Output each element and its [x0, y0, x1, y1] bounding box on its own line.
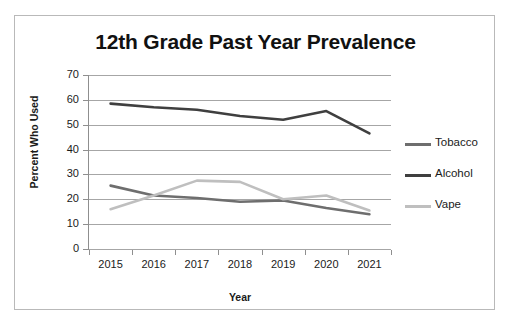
- y-axis-tick-label: 20: [39, 193, 79, 204]
- x-axis-tick-label: 2019: [261, 259, 305, 270]
- y-axis-tick-mark: [83, 224, 88, 225]
- y-axis-tick-label: 10: [39, 218, 79, 229]
- chart-title: 12th Grade Past Year Prevalence: [15, 30, 496, 54]
- y-axis-tick-label: 0: [39, 243, 79, 254]
- plot-area: [89, 75, 391, 249]
- x-axis-tick-label: 2020: [304, 259, 348, 270]
- legend-item-alcohol[interactable]: Alcohol: [405, 167, 495, 198]
- y-axis-tick-mark: [83, 75, 88, 76]
- y-axis-tick-mark: [83, 125, 88, 126]
- x-axis-tick-label: 2015: [89, 259, 133, 270]
- x-axis-tick-label: 2021: [347, 259, 391, 270]
- legend-label: Vape: [435, 198, 461, 210]
- series-line-tobacco: [111, 186, 370, 215]
- series-line-alcohol: [111, 104, 370, 134]
- y-axis-tick-mark: [83, 199, 88, 200]
- legend-swatch-alcohol: [405, 174, 431, 177]
- x-axis-tick-label: 2018: [218, 259, 262, 270]
- x-axis-tick-mark: [132, 250, 133, 255]
- y-axis-tick-label: 60: [39, 94, 79, 105]
- y-axis-tick-mark: [83, 150, 88, 151]
- chart-container: 12th Grade Past Year Prevalence Percent …: [14, 15, 495, 310]
- legend-swatch-vape: [405, 205, 431, 208]
- legend-label: Alcohol: [435, 167, 473, 179]
- legend-item-tobacco[interactable]: Tobacco: [405, 136, 495, 167]
- y-axis-tick-mark: [83, 174, 88, 175]
- chart-legend: TobaccoAlcoholVape: [405, 136, 495, 229]
- x-axis-tick-mark: [218, 250, 219, 255]
- x-axis-tick-mark: [89, 250, 90, 255]
- x-axis-tick-mark: [262, 250, 263, 255]
- y-axis-tick-label: 70: [39, 69, 79, 80]
- y-axis-tick-label: 30: [39, 168, 79, 179]
- legend-swatch-tobacco: [405, 143, 431, 146]
- x-axis-title: Year: [89, 291, 391, 303]
- y-axis-tick-mark: [83, 100, 88, 101]
- gridline: [89, 249, 391, 250]
- x-axis-tick-mark: [348, 250, 349, 255]
- x-axis-tick-mark: [305, 250, 306, 255]
- series-lines: [89, 75, 391, 249]
- y-axis-tick-mark: [83, 249, 88, 250]
- x-axis-tick-label: 2017: [175, 259, 219, 270]
- y-axis-tick-label: 40: [39, 144, 79, 155]
- y-axis-tick-label: 50: [39, 119, 79, 130]
- legend-item-vape[interactable]: Vape: [405, 198, 495, 229]
- x-axis-tick-label: 2016: [132, 259, 176, 270]
- x-axis-tick-mark: [175, 250, 176, 255]
- legend-label: Tobacco: [435, 136, 478, 148]
- x-axis-tick-mark: [391, 250, 392, 255]
